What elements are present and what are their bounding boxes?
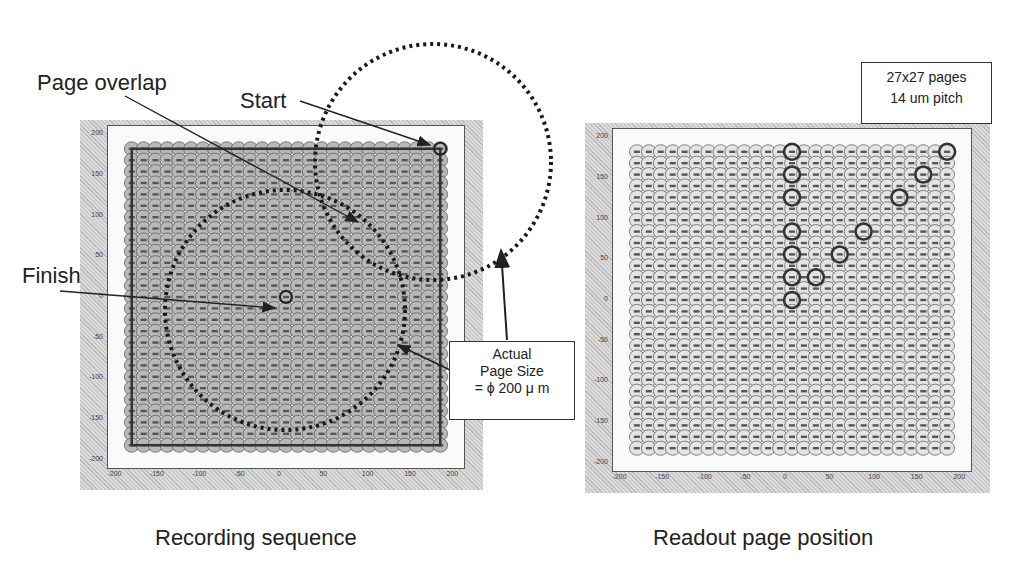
axis-tick-label: 0 (277, 470, 281, 477)
axis-tick-label: 150 (85, 170, 103, 177)
axis-tick-label: -200 (85, 455, 103, 462)
page-size-line2: Page Size (450, 363, 574, 380)
axis-tick-label: -150 (150, 470, 164, 477)
axis-tick-label: 50 (590, 254, 608, 261)
axis-tick-label: -50 (590, 336, 608, 343)
left-page-grid (108, 126, 464, 468)
axis-tick-label: -100 (85, 373, 103, 380)
axis-tick-label: -200 (590, 458, 608, 465)
right-caption: Readout page position (653, 525, 873, 551)
page-overlap-label: Page overlap (37, 70, 167, 96)
axis-tick-label: -100 (192, 470, 206, 477)
axis-tick-label: -150 (655, 473, 669, 480)
axis-tick-label: 200 (953, 473, 965, 480)
grid-info-line1: 27x27 pages (862, 67, 991, 88)
axis-tick-label: 100 (85, 211, 103, 218)
axis-tick-label: 150 (404, 470, 416, 477)
page-size-line1: Actual (450, 346, 574, 363)
axis-tick-label: -200 (107, 470, 121, 477)
grid-info-line2: 14 um pitch (862, 88, 991, 109)
axis-tick-label: 100 (868, 473, 880, 480)
axis-tick-label: -100 (698, 473, 712, 480)
axis-tick-label: 100 (362, 470, 374, 477)
axis-tick-label: -50 (740, 473, 750, 480)
right-plot-axes (612, 128, 972, 472)
axis-tick-label: 150 (590, 173, 608, 180)
axis-tick-label: 0 (85, 292, 103, 299)
finish-label: Finish (22, 263, 81, 289)
page-size-box: Actual Page Size = ϕ 200 μ m (449, 341, 575, 420)
axis-tick-label: -150 (85, 414, 103, 421)
axis-tick-label: -150 (590, 417, 608, 424)
axis-tick-label: 50 (319, 470, 327, 477)
right-plot-frame: 200150100500-50-100-150-200 -200-150-100… (585, 123, 990, 493)
left-plot-axes (107, 125, 465, 469)
axis-tick-label: -100 (590, 376, 608, 383)
axis-tick-label: -50 (85, 333, 103, 340)
grid-info-box: 27x27 pages 14 um pitch (861, 62, 992, 124)
right-page-grid (613, 129, 971, 471)
axis-tick-label: 0 (590, 295, 608, 302)
left-plot-frame: 200150100500-50-100-150-200 -200-150-100… (80, 120, 483, 490)
axis-tick-label: 200 (85, 129, 103, 136)
axis-tick-label: 50 (85, 251, 103, 258)
left-caption: Recording sequence (155, 525, 357, 551)
axis-tick-label: 0 (783, 473, 787, 480)
axis-tick-label: 200 (447, 470, 459, 477)
axis-tick-label: -200 (613, 473, 627, 480)
axis-tick-label: -50 (235, 470, 245, 477)
start-label: Start (240, 88, 286, 114)
axis-tick-label: 200 (590, 132, 608, 139)
axis-tick-label: 100 (590, 214, 608, 221)
axis-tick-label: 50 (826, 473, 834, 480)
page-size-line3: = ϕ 200 μ m (450, 380, 574, 397)
axis-tick-label: 150 (911, 473, 923, 480)
